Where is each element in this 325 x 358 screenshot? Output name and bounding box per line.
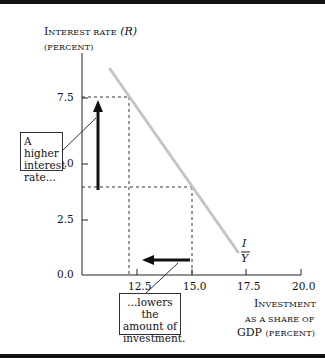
y-axis-unit: (PERCENT): [44, 42, 94, 54]
x-tick-label: 20.0: [292, 280, 315, 292]
y-axis-label: INTEREST RATE (R): [44, 26, 137, 39]
y-tick-label: 2.5: [57, 213, 74, 225]
callout1-leader: [62, 118, 96, 151]
up-arrow-head: [93, 100, 103, 112]
callout-line: amount of: [123, 320, 177, 332]
callout-lowers-investment: ...lowers the amount of investment.: [119, 293, 181, 335]
curve-label-numerator: I: [242, 238, 246, 250]
y-tick-label: 0.0: [57, 268, 74, 280]
x-tick-label: 15.0: [183, 280, 206, 292]
left-arrow-head: [142, 255, 154, 265]
callout-line: A higher: [24, 135, 59, 159]
y-tick-label: 7.5: [57, 91, 74, 103]
callout-line: ...lowers the: [123, 296, 177, 320]
x-axis-label: INVESTMENT: [254, 298, 316, 311]
x-axis-label-line2: AS A SHARE OF: [245, 314, 314, 326]
callout-line: interest: [24, 159, 59, 171]
x-tick-label: 12.5: [128, 280, 151, 292]
callout-line: rate...: [24, 171, 59, 183]
curve-label-denominator: Y: [241, 253, 248, 265]
x-axis-label-line3: GDP (PERCENT): [237, 327, 315, 340]
callout-higher-rate: A higher interest rate...: [20, 132, 63, 171]
x-tick-label: 17.5: [237, 280, 260, 292]
callout-line: investment.: [123, 332, 177, 344]
